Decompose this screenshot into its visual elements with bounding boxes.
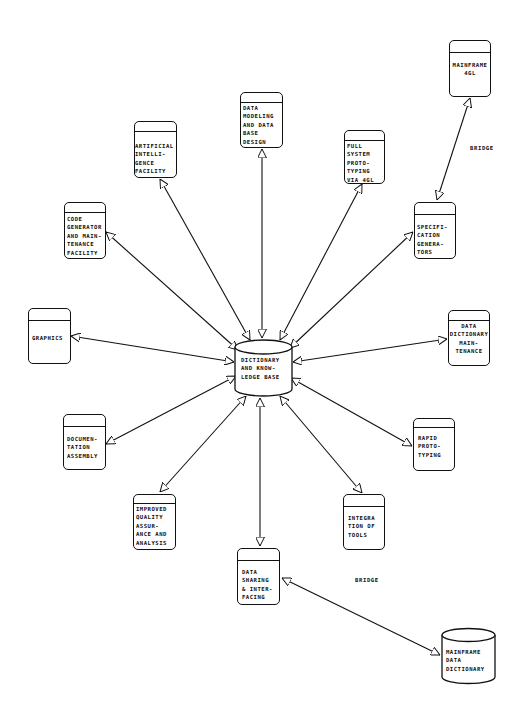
node-rapid-prototyping: RAPID PROTO- TYPING [413, 418, 455, 471]
node-label: FULL SYSTEM PROTO- TYPING VIA 4GL [347, 142, 383, 184]
edge-bridge-mainframe-4gl [437, 98, 470, 200]
node-documentation-assembly: DOCUMEN- TATION ASSEMBLY [63, 414, 106, 470]
edge-dd-maintenance [293, 339, 447, 362]
node-label: ARTIFICIAL INTELLI- GENCE FACILITY [135, 142, 175, 176]
node-cap [450, 41, 490, 53]
node-label: SPECIFI- CATION GENERA- TORS [417, 223, 454, 257]
node-cap [29, 309, 70, 321]
node-cap [415, 203, 455, 215]
node-integration-of-tools: INTEGRA TION OF TOOLS [343, 494, 385, 550]
node-cap [134, 495, 175, 504]
node-cap [65, 203, 105, 213]
edge-improved-quality [160, 396, 246, 492]
node-cap [344, 495, 384, 507]
node-data-modeling: DATA MODELING AND DATA BASE DESIGN [240, 92, 283, 148]
node-label: IMPROVED QUALITY ASSUR- ANCE AND ANALYSI… [136, 505, 174, 547]
node-label: RAPID PROTO- TYPING [418, 434, 453, 459]
node-improved-quality: IMPROVED QUALITY ASSUR- ANCE AND ANALYSI… [133, 494, 176, 550]
node-data-sharing: DATA SHARING & INTER- FACING [237, 548, 280, 605]
edge-documentation [106, 376, 236, 444]
node-label: DATA DICTIONARY MAIN- TENANCE [449, 322, 489, 356]
node-cap [135, 122, 176, 132]
node-code-generator: CODE GENERATOR AND MAIN- TENANCE FACILIT… [64, 202, 106, 259]
node-label: CODE GENERATOR AND MAIN- TENANCE FACILIT… [67, 215, 104, 257]
node-data-dictionary-maintenance: DATA DICTIONARY MAIN- TENANCE [448, 310, 490, 366]
node-cap [345, 131, 384, 141]
node-label: GRAPHICS [32, 334, 69, 342]
bridge-label-top: BRIDGE [470, 145, 494, 151]
node-specification-generators: SPECIFI- CATION GENERA- TORS [414, 202, 456, 259]
edge-code-generator [106, 232, 238, 350]
node-mainframe-4gl: MAINFRAME 4GL [449, 40, 491, 97]
edge-graphics [71, 336, 234, 362]
node-label: MAINFRAME 4GL [450, 61, 490, 78]
bridge-label-bottom: BRIDGE [355, 577, 379, 583]
node-cap [64, 415, 105, 427]
edge-rapid-prototyping [291, 378, 412, 446]
node-label: DOCUMEN- TATION ASSEMBLY [67, 435, 104, 460]
edge-specification [290, 232, 413, 348]
node-cap [241, 93, 282, 103]
node-label: DATA MODELING AND DATA BASE DESIGN [243, 104, 281, 146]
edge-bridge-mainframe-dd [282, 578, 440, 655]
mainframe-dd-label: MAINFRAME DATA DICTIONARY [446, 648, 485, 673]
edge-ai [160, 179, 250, 340]
node-cap [449, 311, 489, 321]
node-label: DATA SHARING & INTER- FACING [242, 568, 278, 602]
node-label: INTEGRA TION OF TOOLS [348, 514, 383, 539]
edge-full-system [280, 184, 362, 340]
hub-label: DICTIONARY AND KNOW- LEDGE BASE [241, 356, 280, 381]
node-cap [414, 419, 454, 428]
node-graphics: GRAPHICS [28, 308, 71, 364]
node-artificial-intelligence: ARTIFICIAL INTELLI- GENCE FACILITY [134, 121, 177, 178]
node-full-system-prototyping: FULL SYSTEM PROTO- TYPING VIA 4GL [344, 130, 385, 184]
node-cap [238, 549, 279, 561]
